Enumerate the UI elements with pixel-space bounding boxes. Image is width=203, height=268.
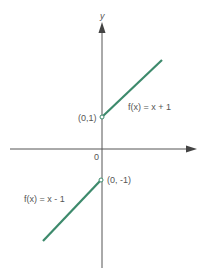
lower-line-segment: [43, 181, 100, 241]
upper-open-endpoint: [100, 115, 104, 119]
upper-point-label: (0,1): [78, 113, 97, 123]
origin-label: 0: [94, 152, 99, 162]
x-axis-arrow-icon: [186, 146, 197, 153]
lower-open-endpoint: [99, 178, 103, 182]
y-axis-label: y: [99, 11, 105, 21]
lower-function-label: f(x) = x - 1: [24, 194, 65, 204]
piecewise-function-graph: y 0 (0,1) f(x) = x + 1 (0, -1) f(x) = x …: [0, 0, 203, 268]
upper-function-label: f(x) = x + 1: [128, 102, 171, 112]
y-axis-arrow-icon: [99, 22, 106, 33]
lower-point-label: (0, -1): [107, 175, 131, 185]
